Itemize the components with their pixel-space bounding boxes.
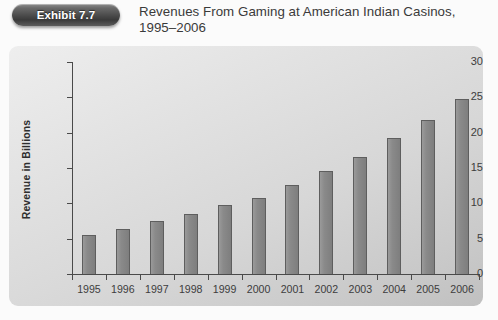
bar-1999 (218, 205, 232, 274)
bar-2005 (421, 120, 435, 274)
x-axis-tick (140, 274, 141, 280)
x-axis-tick (174, 274, 175, 280)
x-axis-tick (72, 274, 73, 280)
x-axis-tick (479, 274, 480, 280)
x-axis-tick (309, 274, 310, 280)
x-axis-tick (343, 274, 344, 280)
bar-2006 (455, 99, 469, 274)
y-axis-tick (67, 133, 73, 134)
x-axis-tick (106, 274, 107, 280)
x-axis-tick (411, 274, 412, 280)
x-axis-tick-label: 2006 (442, 283, 482, 295)
x-axis-tick (276, 274, 277, 280)
x-axis-tick (377, 274, 378, 280)
bar-1995 (82, 235, 96, 274)
chart-panel: Revenue in Billions 05101520253019951996… (9, 46, 483, 306)
y-axis-title: Revenue in Billions (21, 105, 32, 235)
y-axis-tick (67, 203, 73, 204)
bar-2003 (353, 157, 367, 274)
x-axis-tick (242, 274, 243, 280)
exhibit-badge: Exhibit 7.7 (12, 4, 120, 26)
bar-2002 (319, 171, 333, 274)
y-axis-tick-label: 30 (433, 55, 483, 67)
y-axis-tick (67, 239, 73, 240)
chart-title: Revenues From Gaming at American Indian … (139, 4, 489, 35)
exhibit-badge-label: Exhibit 7.7 (37, 9, 96, 21)
y-axis-tick (67, 62, 73, 63)
y-axis-tick (67, 168, 73, 169)
x-axis-tick (445, 274, 446, 280)
exhibit-figure: Exhibit 7.7 Revenues From Gaming at Amer… (0, 0, 498, 320)
bar-2001 (285, 185, 299, 274)
bar-2000 (252, 198, 266, 274)
bar-1997 (150, 221, 164, 274)
plot-area: Revenue in Billions 05101520253019951996… (9, 46, 483, 306)
y-axis-tick (67, 97, 73, 98)
bar-2004 (387, 138, 401, 274)
x-axis-tick (208, 274, 209, 280)
bar-1996 (116, 229, 130, 274)
bar-1998 (184, 214, 198, 274)
